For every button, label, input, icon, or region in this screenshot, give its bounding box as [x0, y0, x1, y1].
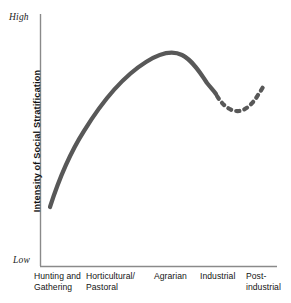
- x-tick-label-horticultural-pastoral: Horticultural/ Pastoral: [86, 271, 135, 292]
- x-tick-label-line-1: Horticultural/: [86, 271, 135, 282]
- x-tick-label-line-1: Agrarian: [154, 271, 187, 282]
- x-tick-label-line-2: Pastoral: [86, 282, 135, 293]
- x-tick-label-line-2: industrial: [246, 282, 281, 293]
- chart-figure: High Low Intensity of Social Stratificat…: [0, 0, 291, 303]
- x-tick-label-line-1: Hunting and: [34, 271, 81, 282]
- x-axis-tick-label-group: Hunting and Gathering Horticultural/ Pas…: [0, 270, 291, 303]
- curve-dashed-segment: [217, 87, 263, 111]
- x-tick-label-line-1: Post-: [246, 271, 281, 282]
- x-tick-label-line-1: Industrial: [200, 271, 235, 282]
- y-axis-title: Intensity of Social Stratification: [32, 41, 42, 241]
- y-axis-low-label: Low: [13, 255, 30, 265]
- x-tick-label-agrarian: Agrarian: [154, 271, 187, 282]
- x-tick-label-hunting-and-gathering: Hunting and Gathering: [34, 271, 81, 292]
- y-axis-high-label: High: [9, 12, 29, 22]
- x-tick-label-industrial: Industrial: [200, 271, 235, 282]
- x-tick-label-line-2: Gathering: [34, 282, 81, 293]
- curve-solid-segment: [50, 53, 216, 207]
- chart-plot-area: [0, 0, 291, 303]
- x-tick-label-post-industrial: Post- industrial: [246, 271, 281, 292]
